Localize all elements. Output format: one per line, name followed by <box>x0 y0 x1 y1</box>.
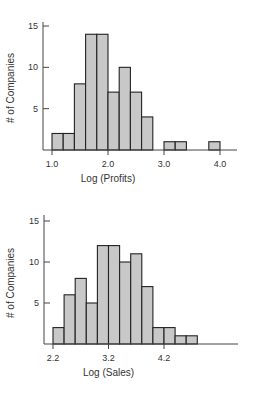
sales-histogram: 510152.23.24.2Log (Sales)# of Companies <box>0 195 254 398</box>
histogram-bar <box>86 34 97 150</box>
histogram-bar <box>53 328 64 344</box>
histogram-bar <box>74 84 85 150</box>
histogram-bar <box>142 117 153 150</box>
histogram-bar <box>164 328 175 344</box>
histogram-bar <box>109 246 120 344</box>
x-tick-label: 1.0 <box>46 159 59 169</box>
histogram-bar <box>75 278 86 344</box>
sales-histogram-svg: 510152.23.24.2Log (Sales)# of Companies <box>0 195 254 398</box>
x-tick-label: 2.2 <box>47 353 60 363</box>
y-tick-label: 10 <box>28 62 38 72</box>
histogram-bar <box>175 336 186 344</box>
histogram-bar <box>63 133 74 150</box>
histogram-bar <box>142 287 153 344</box>
x-axis-title: Log (Sales) <box>83 367 134 378</box>
histogram-bar <box>97 34 108 150</box>
x-tick-label: 4.0 <box>214 159 227 169</box>
histogram-bar <box>164 142 175 150</box>
histogram-bar <box>52 133 63 150</box>
x-tick-label: 4.2 <box>158 353 171 363</box>
histogram-bar <box>130 92 141 150</box>
histogram-bar <box>153 328 164 344</box>
histogram-bar <box>209 142 220 150</box>
y-axis-title: # of Companies <box>5 53 16 123</box>
y-tick-label: 15 <box>29 216 39 226</box>
y-tick-label: 5 <box>34 298 39 308</box>
histogram-bar <box>86 303 97 344</box>
y-tick-label: 5 <box>33 104 38 114</box>
histogram-bar <box>175 142 186 150</box>
histogram-bar <box>64 295 75 344</box>
histogram-bar <box>97 246 108 344</box>
profits-histogram: 510151.02.03.04.0Log (Profits)# of Compa… <box>0 0 254 200</box>
x-tick-label: 2.0 <box>102 159 115 169</box>
histogram-bar <box>119 67 130 150</box>
histogram-bar <box>131 254 142 344</box>
y-axis-title: # of Companies <box>5 248 16 318</box>
y-tick-label: 15 <box>28 21 38 31</box>
x-axis-title: Log (Profits) <box>81 173 135 184</box>
x-tick-label: 3.2 <box>102 353 115 363</box>
y-tick-label: 10 <box>29 257 39 267</box>
histogram-bar <box>108 92 119 150</box>
histogram-bar <box>120 262 131 344</box>
x-tick-label: 3.0 <box>158 159 171 169</box>
profits-histogram-svg: 510151.02.03.04.0Log (Profits)# of Compa… <box>0 0 254 200</box>
histogram-bar <box>186 336 197 344</box>
